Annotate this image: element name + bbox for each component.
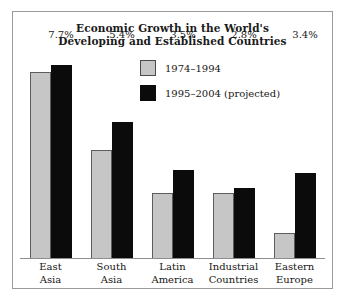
bar-wrap-eastern-europe-old <box>274 42 295 258</box>
value-label-eastern-europe: 3.4% <box>292 29 317 40</box>
x-label-south-asia-line-2: Asia <box>81 274 142 287</box>
bar-wrap-latin-america-new: 3.5% <box>173 42 194 258</box>
bar-wrap-eastern-europe-new: 3.4% <box>295 42 316 258</box>
bar-south-asia-1974-1994 <box>91 150 112 258</box>
x-label-east-asia: East Asia <box>20 261 81 286</box>
bar-wrap-south-asia-new: 5.4% <box>112 42 133 258</box>
x-label-east-asia-line-2: Asia <box>20 274 81 287</box>
x-label-south-asia-line-1: South <box>97 261 127 272</box>
x-axis-labels: East Asia South Asia Latin America Indus… <box>20 261 325 286</box>
bar-latin-america-1995-2004: 3.5% <box>173 170 194 258</box>
x-label-industrial-countries-line-2: Countries <box>203 274 264 287</box>
bar-south-asia-1995-2004: 5.4% <box>112 122 133 258</box>
value-label-industrial-countries: 2.8% <box>231 29 256 40</box>
x-label-latin-america: Latin America <box>142 261 203 286</box>
x-label-east-asia-line-1: East <box>39 261 61 272</box>
bar-eastern-europe-1995-2004: 3.4% <box>295 173 316 258</box>
x-label-eastern-europe: Eastern Europe <box>264 261 325 286</box>
x-label-latin-america-line-1: Latin <box>159 261 185 272</box>
bar-wrap-east-asia-old <box>30 42 51 258</box>
bar-wrap-industrial-countries-new: 2.8% <box>234 42 255 258</box>
bar-group-industrial-countries: 2.8% <box>203 42 264 258</box>
x-label-south-asia: South Asia <box>81 261 142 286</box>
bar-wrap-east-asia-new: 7.7% <box>51 42 72 258</box>
value-label-latin-america: 3.5% <box>170 29 195 40</box>
value-label-east-asia: 7.7% <box>48 29 73 40</box>
bar-east-asia-1995-2004: 7.7% <box>51 65 72 258</box>
chart-figure: Economic Growth in the World's Developin… <box>12 11 333 289</box>
bar-group-latin-america: 3.5% <box>142 42 203 258</box>
bar-wrap-latin-america-old <box>152 42 173 258</box>
x-label-industrial-countries: Industrial Countries <box>203 261 264 286</box>
bar-latin-america-1974-1994 <box>152 193 173 258</box>
bar-wrap-industrial-countries-old <box>213 42 234 258</box>
x-label-eastern-europe-line-2: Europe <box>264 274 325 287</box>
bar-group-eastern-europe: 3.4% <box>264 42 325 258</box>
bar-group-south-asia: 5.4% <box>81 42 142 258</box>
bar-groups: 7.7% 5.4% <box>20 42 325 258</box>
x-axis-line <box>20 258 325 259</box>
bar-wrap-south-asia-old <box>91 42 112 258</box>
bar-industrial-countries-1974-1994 <box>213 193 234 258</box>
value-label-south-asia: 5.4% <box>109 29 134 40</box>
x-label-industrial-countries-line-1: Industrial <box>209 261 259 272</box>
bar-eastern-europe-1974-1994 <box>274 233 295 258</box>
x-label-latin-america-line-2: America <box>142 274 203 287</box>
bar-group-east-asia: 7.7% <box>20 42 81 258</box>
bar-industrial-countries-1995-2004: 2.8% <box>234 188 255 258</box>
plot-area: 7.7% 5.4% <box>20 42 325 280</box>
x-label-eastern-europe-line-1: Eastern <box>275 261 315 272</box>
bar-east-asia-1974-1994 <box>30 72 51 258</box>
